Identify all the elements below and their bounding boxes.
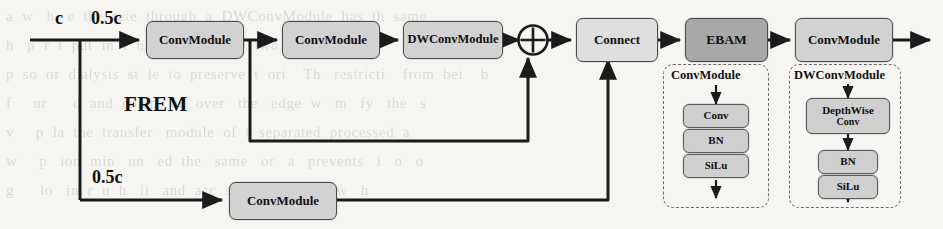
legend-dwconvmodule-title: DWConvModule — [794, 68, 885, 83]
label-bottom-branch-channels: 0.5c — [92, 167, 123, 188]
figure-canvas: a w h e the rate through a DWConvModule … — [0, 0, 943, 229]
legend-convmodule-layer-silu: SiLu — [683, 154, 749, 178]
node-convmodule-output[interactable]: ConvModule — [795, 18, 893, 62]
add-operator-glyph — [519, 26, 548, 55]
node-ebam[interactable]: EBAM — [685, 18, 768, 62]
node-convmodule-bottom[interactable]: ConvModule — [229, 182, 337, 220]
legend-convmodule-layer-conv: Conv — [683, 104, 749, 128]
node-convmodule-top-2[interactable]: ConvModule — [282, 21, 380, 59]
label-input-channels: c — [55, 8, 63, 29]
node-convmodule-top-1[interactable]: ConvModule — [146, 21, 244, 59]
node-connect[interactable]: Connect — [576, 18, 658, 62]
node-dwconvmodule-top[interactable]: DWConvModule — [403, 21, 503, 59]
legend-convmodule-title: ConvModule — [671, 68, 740, 83]
depthwise-line-1: DepthWise — [822, 105, 874, 117]
label-top-branch-channels: 0.5c — [91, 8, 122, 29]
legend-dwconvmodule-layer-silu: SiLu — [818, 175, 878, 199]
legend-dwconvmodule-layer-bn: BN — [818, 150, 878, 174]
label-frem-module: FREM — [124, 92, 188, 117]
depthwise-line-2: Conv — [837, 117, 860, 128]
legend-dwconvmodule-layer-depthwiseconv: DepthWise Conv — [806, 98, 890, 134]
legend-convmodule-layer-bn: BN — [683, 129, 749, 153]
